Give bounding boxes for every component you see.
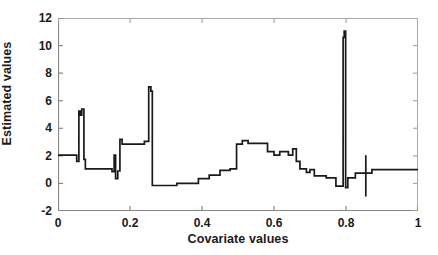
chart-figure: -2024681012 Estimated values Covariate v… <box>0 0 438 255</box>
x-tick-label: 0.6 <box>254 217 294 229</box>
line-chart-svg <box>58 18 418 211</box>
x-tick-label: 1 <box>398 217 438 229</box>
x-tick-label: 0 <box>38 217 78 229</box>
x-axis-label: Covariate values <box>58 232 418 246</box>
data-series <box>58 31 418 196</box>
axis-lines <box>58 18 418 211</box>
x-tick-label: 0.4 <box>182 217 222 229</box>
series-line <box>58 31 418 187</box>
axis-ticks <box>58 18 418 211</box>
plot-area <box>58 18 418 211</box>
x-tick-label: 0.2 <box>110 217 150 229</box>
y-tick-label: -2 <box>0 205 52 217</box>
y-axis-label: Estimated values <box>0 0 20 190</box>
x-tick-label: 0.8 <box>326 217 366 229</box>
